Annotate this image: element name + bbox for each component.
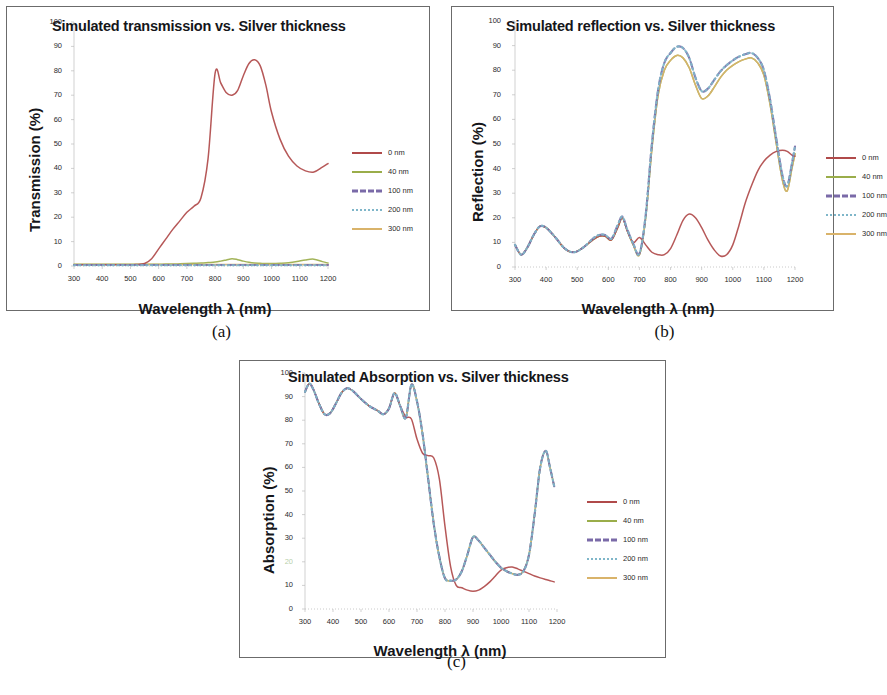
y-tick-label: 50 (36, 139, 62, 148)
y-tick-label: 100 (267, 368, 293, 377)
legend-swatch-icon (352, 167, 382, 176)
legend-item-0-nm[interactable]: 0 nm (826, 148, 887, 167)
legend-item-300-nm[interactable]: 300 nm (352, 219, 413, 238)
legend-swatch-icon (826, 191, 856, 200)
y-tick-label: 80 (475, 65, 501, 74)
panel-a: Simulated transmission vs. Silver thickn… (0, 0, 443, 352)
series-line-0-nm (74, 60, 328, 265)
panel-c: Simulated Absorption vs. Silver thicknes… (235, 352, 678, 695)
legend-label: 200 nm (623, 555, 648, 563)
legend-item-300-nm[interactable]: 300 nm (826, 224, 887, 243)
series-line-100-nm (305, 384, 554, 581)
legend-swatch-icon (587, 497, 617, 506)
chart-a-legend: 0 nm40 nm100 nm200 nm300 nm (352, 143, 413, 238)
y-tick-label: 90 (36, 41, 62, 50)
legend-item-0-nm[interactable]: 0 nm (587, 492, 648, 511)
y-tick-label: 30 (36, 188, 62, 197)
legend-item-200-nm[interactable]: 200 nm (352, 200, 413, 219)
legend-swatch-icon (587, 535, 617, 544)
legend-item-40-nm[interactable]: 40 nm (587, 511, 648, 530)
chart-b-x-axis-title: Wavelength λ (nm) (498, 300, 798, 317)
legend-swatch-icon (826, 229, 856, 238)
chart-b-plot (505, 13, 805, 277)
y-tick-label: 70 (475, 90, 501, 99)
legend-swatch-icon (587, 573, 617, 582)
y-tick-label: 10 (475, 237, 501, 246)
panel-b: Simulated reflection vs. Silver thicknes… (443, 0, 886, 352)
legend-swatch-icon (826, 172, 856, 181)
y-tick-label: 100 (475, 16, 501, 25)
series-line-200-nm (515, 46, 795, 254)
legend-item-200-nm[interactable]: 200 nm (826, 205, 887, 224)
series-line-40-nm (515, 55, 795, 255)
legend-swatch-icon (826, 210, 856, 219)
legend-swatch-icon (352, 205, 382, 214)
y-tick-label: 70 (36, 90, 62, 99)
legend-label: 300 nm (623, 574, 648, 582)
legend-label: 0 nm (388, 149, 405, 157)
x-tick-label: 1200 (541, 617, 573, 626)
y-tick-label: 90 (475, 41, 501, 50)
series-line-40-nm (74, 259, 328, 265)
y-tick-label: 100 (36, 17, 62, 26)
y-tick-label: 30 (475, 188, 501, 197)
series-line-300-nm (515, 55, 795, 255)
legend-item-0-nm[interactable]: 0 nm (352, 143, 413, 162)
y-tick-label: 40 (36, 163, 62, 172)
legend-label: 0 nm (623, 498, 640, 506)
y-tick-label: 40 (267, 510, 293, 519)
y-tick-label: 80 (267, 415, 293, 424)
legend-label: 40 nm (388, 168, 409, 176)
y-tick-label: 0 (36, 261, 62, 270)
legend-swatch-icon (352, 224, 382, 233)
legend-swatch-icon (826, 153, 856, 162)
y-tick-label: 80 (36, 66, 62, 75)
y-tick-label: 10 (267, 580, 293, 589)
y-tick-label: 60 (267, 462, 293, 471)
y-tick-label: 50 (267, 486, 293, 495)
chart-a-x-axis-title: Wavelength λ (nm) (60, 300, 350, 317)
legend-item-300-nm[interactable]: 300 nm (587, 568, 648, 587)
y-tick-label: 50 (475, 139, 501, 148)
y-tick-label: 20 (36, 212, 62, 221)
legend-label: 40 nm (862, 173, 883, 181)
y-tick-label: 0 (475, 262, 501, 271)
legend-label: 300 nm (388, 225, 413, 233)
legend-label: 0 nm (862, 154, 879, 162)
legend-item-200-nm[interactable]: 200 nm (587, 549, 648, 568)
y-tick-label: 40 (475, 164, 501, 173)
legend-swatch-icon (352, 186, 382, 195)
legend-swatch-icon (587, 516, 617, 525)
legend-item-100-nm[interactable]: 100 nm (587, 530, 648, 549)
legend-label: 100 nm (623, 536, 648, 544)
legend-item-40-nm[interactable]: 40 nm (352, 162, 413, 181)
legend-item-100-nm[interactable]: 100 nm (826, 186, 887, 205)
y-tick-label: 60 (475, 114, 501, 123)
legend-label: 200 nm (388, 206, 413, 214)
legend-item-100-nm[interactable]: 100 nm (352, 181, 413, 200)
legend-item-40-nm[interactable]: 40 nm (826, 167, 887, 186)
chart-a-plot (66, 14, 336, 276)
caption-c: (c) (235, 652, 678, 672)
y-tick-label: 20 (475, 213, 501, 222)
y-tick-label: 70 (267, 439, 293, 448)
chart-c-legend: 0 nm40 nm100 nm200 nm300 nm (587, 492, 648, 587)
legend-label: 100 nm (388, 187, 413, 195)
legend-label: 100 nm (862, 192, 887, 200)
y-tick-label: 30 (267, 533, 293, 542)
y-tick-label: 60 (36, 115, 62, 124)
legend-label: 40 nm (623, 517, 644, 525)
caption-b: (b) (443, 322, 886, 342)
y-tick-label: 20 (267, 557, 293, 566)
series-line-100-nm (515, 46, 795, 254)
y-tick-label: 0 (267, 604, 293, 613)
chart-c-plot (297, 365, 565, 617)
legend-swatch-icon (352, 148, 382, 157)
caption-a: (a) (0, 322, 443, 342)
y-tick-label: 10 (36, 237, 62, 246)
y-tick-label: 90 (267, 392, 293, 401)
legend-label: 200 nm (862, 211, 887, 219)
chart-b-legend: 0 nm40 nm100 nm200 nm300 nm (826, 148, 887, 243)
legend-label: 300 nm (862, 230, 887, 238)
legend-swatch-icon (587, 554, 617, 563)
